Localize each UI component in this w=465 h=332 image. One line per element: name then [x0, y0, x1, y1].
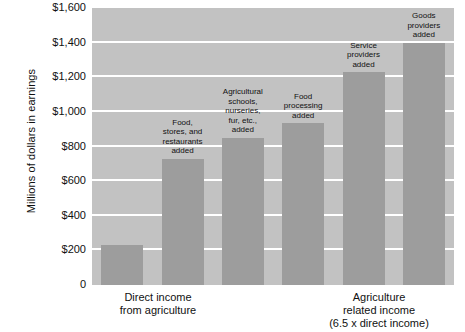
y-axis-tick-800: $800 [14, 141, 86, 152]
x-axis-label-direct-income: Direct income from agriculture [78, 291, 238, 317]
bar-caption-3: Agricultural schools, nurseries, fur, et… [210, 87, 276, 135]
y-axis-tick-1400: $1,400 [14, 37, 86, 48]
bar-4[interactable] [282, 123, 324, 285]
y-axis-tick-1200: $1,200 [14, 71, 86, 82]
y-axis-tick-1600: $1,600 [14, 2, 86, 13]
y-axis-tick-200: $200 [14, 244, 86, 255]
y-axis-tick-600: $600 [14, 175, 86, 186]
bar-caption-2: Food, stores, and restaurants added [150, 118, 216, 156]
bar-6[interactable] [403, 43, 445, 285]
bars-layer: Food, stores, and restaurants addedAgric… [92, 8, 454, 285]
x-axis-label-agriculture-related-income: Agriculture related income (6.5 x direct… [296, 291, 462, 330]
bar-chart: Millions of dollars in earnings $1,600$1… [0, 0, 465, 332]
y-axis-tick-400: $400 [14, 210, 86, 221]
y-axis-tick-0: 0 [14, 279, 86, 290]
bar-caption-4: Food processing added [270, 92, 336, 121]
bar-5[interactable] [343, 72, 385, 285]
y-axis-tick-labels: $1,600$1,400$1,200$1,000$800$600$400$200… [14, 0, 86, 300]
bar-caption-5: Service providers added [331, 41, 397, 70]
y-axis-tick-1000: $1,000 [14, 106, 86, 117]
plot-area: Food, stores, and restaurants addedAgric… [92, 8, 454, 285]
bar-3[interactable] [222, 138, 264, 285]
bar-1[interactable] [101, 245, 143, 285]
bar-caption-6: Goods providers added [391, 11, 457, 40]
bar-2[interactable] [162, 159, 204, 285]
